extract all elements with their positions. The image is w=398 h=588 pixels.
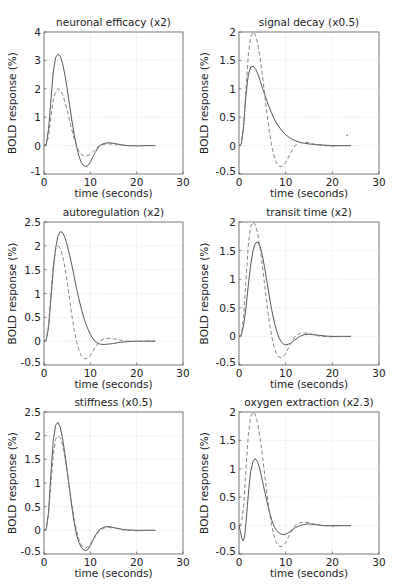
x-axis-label: time (seconds) xyxy=(74,378,152,390)
ytick-label: 0 xyxy=(34,140,41,152)
xtick-label: 0 xyxy=(236,367,243,379)
ytick-label: 1 xyxy=(229,273,236,285)
subplot-neuronal-efficacy: neuronal efficacy (x2) 0102030-101234tim… xyxy=(6,16,190,199)
ytick-label: 0 xyxy=(229,330,236,342)
x-axis-label: time (seconds) xyxy=(74,567,152,579)
series-line-modified xyxy=(239,459,351,541)
ytick-label: -0.5 xyxy=(216,356,237,368)
x-axis-label: time (seconds) xyxy=(270,378,348,390)
subplot-title: signal decay (x0.5) xyxy=(259,16,359,28)
ytick-label: 1.5 xyxy=(219,245,236,257)
ytick-label: 3 xyxy=(34,54,41,66)
figure-canvas: neuronal efficacy (x2) 0102030-101234tim… xyxy=(0,0,398,588)
ytick-label: -0.5 xyxy=(216,165,237,177)
ytick-label: 1.5 xyxy=(219,54,236,66)
ytick-label: 2 xyxy=(34,430,41,442)
series-line-modified xyxy=(44,54,155,166)
ytick-label: 1.5 xyxy=(24,264,41,276)
xtick-label: 0 xyxy=(41,176,48,188)
ytick-label: 4 xyxy=(34,26,41,38)
xtick-label: 30 xyxy=(176,556,189,568)
y-axis-label: BOLD response (%) xyxy=(198,432,210,534)
xtick-label: 30 xyxy=(176,367,189,379)
series-line-baseline xyxy=(44,436,155,548)
subplot-transit-time: transit time (x2) 0102030-0.500.511.52ti… xyxy=(198,206,386,390)
xtick-label: 30 xyxy=(176,176,189,188)
xtick-label: 0 xyxy=(41,367,48,379)
subplot-signal-decay: signal decay (x0.5) 0102030-0.500.511.52… xyxy=(198,16,386,199)
ytick-label: -0.5 xyxy=(216,545,237,557)
ytick-label: -0.5 xyxy=(21,545,42,557)
ytick-label: 1 xyxy=(34,111,41,123)
y-axis-label: BOLD response (%) xyxy=(198,243,210,345)
axes-frame xyxy=(239,412,379,554)
ytick-label: 0.5 xyxy=(219,111,236,123)
series-line-modified xyxy=(239,242,351,345)
ytick-label: 0 xyxy=(229,140,236,152)
ytick-label: 1.5 xyxy=(219,434,236,446)
series-line-baseline xyxy=(44,246,155,359)
xtick-label: 0 xyxy=(41,556,48,568)
series-line-baseline xyxy=(239,222,351,358)
ytick-label: 1 xyxy=(34,477,41,489)
ytick-label: 2 xyxy=(229,26,236,38)
subplot-title: neuronal efficacy (x2) xyxy=(56,16,171,28)
ytick-label: -1 xyxy=(31,165,41,177)
y-axis-label: BOLD response (%) xyxy=(6,432,18,534)
ytick-label: 0 xyxy=(34,524,41,536)
subplot-title: stiffness (x0.5) xyxy=(74,396,152,408)
axes-frame xyxy=(44,32,183,174)
ytick-label: 2.5 xyxy=(24,406,41,418)
ytick-label: 2 xyxy=(229,216,236,228)
subplot-title: autoregulation (x2) xyxy=(63,206,164,218)
ytick-label: 2 xyxy=(34,83,41,95)
axes-frame xyxy=(239,32,379,174)
x-axis-label: time (seconds) xyxy=(74,187,152,199)
series-line-modified xyxy=(239,66,351,146)
ytick-label: 0.5 xyxy=(24,311,41,323)
subplot-title: oxygen extraction (x2.3) xyxy=(244,396,373,408)
ytick-label: 1 xyxy=(34,288,41,300)
ytick-label: -0.5 xyxy=(21,356,42,368)
series-line-baseline xyxy=(239,412,351,547)
x-axis-label: time (seconds) xyxy=(270,567,348,579)
ytick-label: 0 xyxy=(229,520,236,532)
xtick-label: 30 xyxy=(372,556,385,568)
subplot-stiffness: stiffness (x0.5) 0102030-0.500.511.522.5… xyxy=(6,396,190,579)
subplot-oxygen-extraction: oxygen extraction (x2.3) 0102030-0.500.5… xyxy=(198,396,386,579)
ytick-label: 1.5 xyxy=(24,453,41,465)
xtick-label: 30 xyxy=(372,176,385,188)
xtick-label: 0 xyxy=(236,556,243,568)
ytick-label: 2 xyxy=(34,240,41,252)
ytick-label: 0.5 xyxy=(219,302,236,314)
subplot-title: transit time (x2) xyxy=(266,206,352,218)
x-axis-label: time (seconds) xyxy=(270,187,348,199)
ytick-label: 1 xyxy=(229,463,236,475)
y-axis-label: BOLD response (%) xyxy=(198,52,210,154)
ytick-label: 2 xyxy=(229,406,236,418)
y-axis-label: BOLD response (%) xyxy=(6,52,18,154)
y-axis-label: BOLD response (%) xyxy=(6,243,18,345)
subplot-autoregulation: autoregulation (x2) 0102030-0.500.511.52… xyxy=(6,206,190,390)
series-line-modified xyxy=(44,232,155,345)
ytick-label: 0.5 xyxy=(219,491,236,503)
series-line-baseline xyxy=(239,32,351,167)
series-line-modified xyxy=(44,422,155,550)
xtick-label: 0 xyxy=(236,176,243,188)
ytick-label: 0.5 xyxy=(24,501,41,513)
ytick-label: 1 xyxy=(229,83,236,95)
ytick-label: 0 xyxy=(34,335,41,347)
xtick-label: 30 xyxy=(372,367,385,379)
axes-frame xyxy=(239,222,379,365)
ytick-label: 2.5 xyxy=(24,216,41,228)
stray-point xyxy=(346,134,348,136)
